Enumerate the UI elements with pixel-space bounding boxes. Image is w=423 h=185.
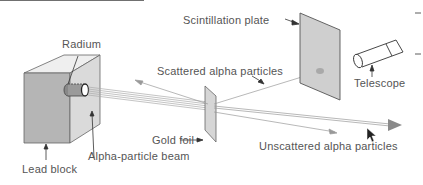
lead-block-graphic <box>24 55 100 143</box>
label-scintillation-plate: Scintillation plate <box>183 14 269 26</box>
radium-source-graphic <box>64 84 89 96</box>
label-gold-foil: Gold foil <box>152 134 194 146</box>
label-unscattered: Unscattered alpha particles <box>259 140 398 152</box>
diagram-graphic <box>0 0 423 185</box>
rutherford-diagram: Radium Lead block Alpha-particle beam Go… <box>0 0 423 185</box>
label-radium: Radium <box>62 38 101 50</box>
label-telescope: Telescope <box>354 77 405 89</box>
label-alpha-beam: Alpha-particle beam <box>88 150 190 162</box>
scintillation-plate-graphic <box>300 13 340 100</box>
gold-foil-graphic <box>205 86 216 142</box>
label-lead-block: Lead block <box>22 163 77 175</box>
label-scattered: Scattered alpha particles <box>157 65 283 77</box>
